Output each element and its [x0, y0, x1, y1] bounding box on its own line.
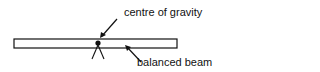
- label-centre-of-gravity: centre of gravity: [124, 6, 202, 18]
- label-balanced-beam: balanced beam: [137, 56, 212, 68]
- arrow-centre-of-gravity: [100, 19, 117, 38]
- pivot-dot: [95, 40, 100, 45]
